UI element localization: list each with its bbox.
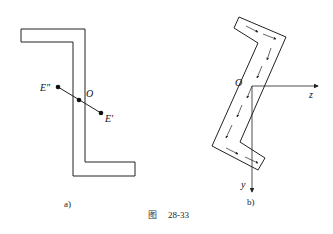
label-origin-o: O bbox=[235, 77, 242, 88]
figure-canvas: E" O E′ a) O z y b) 图 28-33 bbox=[0, 0, 333, 234]
label-z-axis: z bbox=[308, 89, 313, 100]
point-e-double-prime bbox=[56, 85, 61, 90]
panel-b-label: b) bbox=[247, 197, 255, 207]
z-section-outline bbox=[21, 29, 135, 176]
panel-b: O z y b) bbox=[212, 17, 318, 207]
label-e-double-prime: E" bbox=[39, 82, 51, 93]
label-e-prime: E′ bbox=[104, 113, 114, 124]
shear-flow-arrows bbox=[226, 26, 276, 163]
label-y-axis: y bbox=[240, 179, 246, 190]
figure-caption: 图 28-33 bbox=[148, 210, 189, 220]
panel-a: E" O E′ a) bbox=[21, 29, 135, 209]
caption-number: 28-33 bbox=[168, 210, 189, 220]
point-o bbox=[77, 98, 82, 103]
panel-a-label: a) bbox=[64, 199, 71, 209]
point-e-prime bbox=[99, 111, 104, 116]
caption-prefix: 图 bbox=[148, 210, 157, 220]
label-o: O bbox=[86, 88, 93, 99]
